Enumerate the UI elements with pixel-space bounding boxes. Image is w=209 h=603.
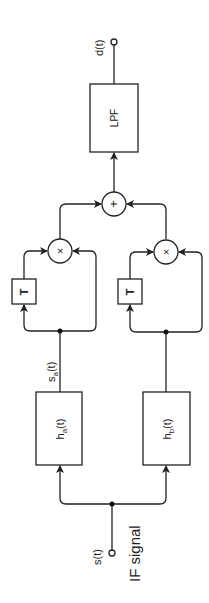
signal-a-label: sa(t) <box>45 362 60 382</box>
direct-a-to-mult <box>60 251 96 331</box>
delay-b-to-mult <box>130 252 153 279</box>
summer-symbol: + <box>106 200 121 208</box>
lpf-label: LPF <box>109 109 120 127</box>
junction-b-to-delay <box>130 305 166 332</box>
delay-a-label: T <box>18 288 30 295</box>
multiplier-a-symbol: × <box>54 248 66 254</box>
output-terminal <box>111 39 117 84</box>
delay-b-label: T <box>124 288 136 295</box>
input-junction <box>110 502 115 507</box>
mult-b-to-summer <box>127 204 166 239</box>
mult-a-to-summer <box>60 204 101 239</box>
output-label: d(t) <box>93 40 105 57</box>
delay-a-to-mult <box>24 251 47 279</box>
input-to-filter-a <box>60 466 112 504</box>
block-diagram: d(t) LPF + × T × T sa(t) ha(t) hb(t) s(t… <box>0 0 209 603</box>
junction-a-to-delay <box>24 305 60 331</box>
input-caption: IF signal <box>126 525 143 582</box>
multiplier-b-symbol: × <box>160 249 172 255</box>
input-label: s(t) <box>91 549 103 565</box>
input-to-filter-b <box>112 466 166 504</box>
direct-b-to-mult <box>166 252 202 332</box>
input-terminal <box>109 550 115 556</box>
